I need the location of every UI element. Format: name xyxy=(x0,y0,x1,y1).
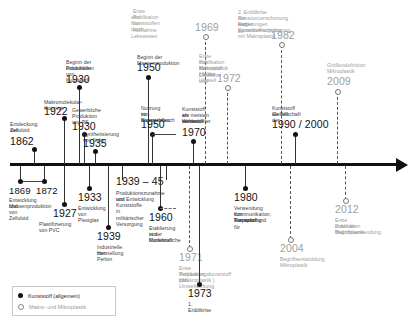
event-marker-filled xyxy=(93,149,98,154)
event-marker-filled xyxy=(191,139,196,144)
event-connector xyxy=(20,181,44,182)
legend-label: Kunststoff (allgemein) xyxy=(28,293,80,299)
event-label-line3: von Zelluloid xyxy=(9,209,28,221)
event-marker-open xyxy=(335,89,341,95)
event-label-line2: Produktion von Kunststoff xyxy=(66,65,91,84)
event-marker-filled xyxy=(18,179,23,184)
event-stem xyxy=(34,150,35,164)
event-marker-filled xyxy=(32,147,37,152)
event-year: 1927 xyxy=(53,208,77,219)
event-stem xyxy=(108,166,109,227)
event-label-line3: Verpackung xyxy=(234,217,261,223)
open-dot-icon xyxy=(18,304,24,310)
event-year: 1969 xyxy=(195,22,219,33)
event-label-line2: Mikroplastik xyxy=(280,262,308,268)
event-label-line3: Werkstoff xyxy=(182,118,204,124)
event-marker-filled xyxy=(293,132,298,137)
event-stem xyxy=(199,166,200,284)
event-year: 1973 xyxy=(188,288,212,299)
event-label-line1: Synthetisierung von Nylon xyxy=(83,131,119,143)
event-stem xyxy=(64,166,65,204)
event-year: 2012 xyxy=(335,204,359,215)
event-stem xyxy=(295,135,296,164)
event-stem xyxy=(152,135,153,164)
event-stem xyxy=(64,119,65,164)
event-year: 1869 xyxy=(9,185,31,196)
timeline-axis xyxy=(10,163,398,166)
event-stem xyxy=(245,166,246,188)
event-connector xyxy=(152,134,176,135)
event-year: 1933 xyxy=(78,192,102,203)
event-stem xyxy=(160,166,161,208)
event-label-line3: Makroplastik ) in der Umwelt xyxy=(199,65,228,84)
event-year: 2004 xyxy=(280,243,304,254)
event-label-line2: von Plexiglas xyxy=(78,211,99,223)
event-year: 2009 xyxy=(327,76,351,87)
event-marker-open xyxy=(225,85,231,91)
event-label-line3: Makroplastik xyxy=(335,229,364,235)
event-marker-open xyxy=(203,34,209,40)
event-label-line2: von Kunststoffe in militärischer Versorg… xyxy=(116,196,144,227)
timeline-axis-arrow xyxy=(396,158,408,172)
event-stem xyxy=(290,166,291,239)
event-label-line2: Zelluloid xyxy=(10,127,29,133)
event-label-line2: Produktion von PS xyxy=(72,113,97,125)
event-stem xyxy=(89,166,90,188)
event-stem xyxy=(166,166,167,180)
legend-item-makro-mikroplastik: Makro- und Mikroplastik xyxy=(18,301,110,312)
event-year: 1960 xyxy=(149,212,173,223)
event-label-line2: von Perlon xyxy=(97,250,112,262)
filled-dot-icon xyxy=(18,293,23,298)
event-label-line1: Plastifizierung von PVC xyxy=(39,221,71,233)
event-label-line1: Beginn der Massenproduktion xyxy=(137,54,179,66)
event-stem xyxy=(345,166,346,200)
event-stem xyxy=(227,88,228,164)
event-stem xyxy=(189,166,190,248)
event-stem xyxy=(337,92,338,164)
event-label-line1: 1. Erdölkrise xyxy=(188,301,211,313)
event-label-line2: im Hausgebrauch xyxy=(141,111,175,123)
event-marker-open xyxy=(279,42,285,48)
event-marker-filled xyxy=(42,179,47,184)
legend-label: Makro- und Mikroplastik xyxy=(29,304,86,310)
timeline-chart: 1862 Entdeckung von Zelluloid 1922 Makro… xyxy=(0,0,420,324)
event-marker-filled xyxy=(146,75,151,80)
legend: Kunststoff (allgemein) Makro- und Mikrop… xyxy=(12,286,116,316)
event-label-line2: Gesellschaft xyxy=(272,111,301,117)
event-year: 1970 xyxy=(182,127,206,138)
event-marker-filled xyxy=(77,85,82,90)
event-year: 1939 xyxy=(97,231,121,242)
legend-item-kunststoff: Kunststoff (allgemein) xyxy=(18,290,110,301)
event-connector xyxy=(160,208,176,209)
event-label-line2: Mikroplastik xyxy=(327,68,355,74)
event-year: 1939 – 45 xyxy=(116,176,164,187)
event-year-end: 1872 xyxy=(36,185,58,196)
event-year: 1980 xyxy=(234,192,258,203)
event-year: 1862 xyxy=(10,136,34,147)
event-label-line2: von Kunststoffen durch Lebewesen xyxy=(131,14,160,39)
event-label-line2: in der Modebranche xyxy=(149,231,181,243)
event-stem xyxy=(79,88,80,164)
event-stem xyxy=(193,142,194,164)
event-label-line3: wegen Umweltverschmutzung mit Makroplast… xyxy=(238,21,290,40)
